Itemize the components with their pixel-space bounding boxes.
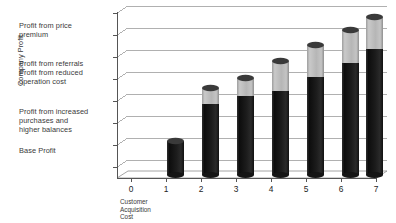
x-tick-2: 2: [193, 184, 209, 194]
bar-column-1: [167, 138, 184, 178]
x-tick-7: 7: [368, 184, 384, 194]
bar-column-7: [366, 14, 383, 178]
bar-column-6: [342, 27, 359, 178]
bar-column-5: [307, 42, 324, 178]
x-tick-3: 3: [228, 184, 244, 194]
x-tick-0: 0: [123, 184, 139, 194]
x-tick-6: 6: [333, 184, 349, 194]
bar-column-3: [237, 75, 254, 178]
x-axis-caption: Customer Acquisition Cost: [120, 198, 182, 221]
bar-column-4: [272, 58, 289, 178]
x-tick-5: 5: [298, 184, 314, 194]
bar-column-2: [202, 85, 219, 178]
x-tick-4: 4: [263, 184, 279, 194]
profit-stacked-bar-chart: Profit from price premium Profit from re…: [0, 0, 396, 223]
x-tick-1: 1: [158, 184, 174, 194]
